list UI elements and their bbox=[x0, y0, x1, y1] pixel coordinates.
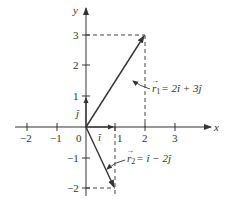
r1-label: r1= 2î + 3ĵ bbox=[152, 82, 202, 96]
r1-vector-arrow-icon: → bbox=[151, 76, 159, 85]
origin-label: 0 bbox=[76, 132, 82, 144]
vector-diagram: x −2 −1 0 1 2 3 y 3 2 1 −1 −2 î ĵ bbox=[0, 0, 228, 199]
y-tick-neg2: −2 bbox=[67, 182, 79, 194]
x-axis-label: x bbox=[213, 121, 219, 133]
guide-lines bbox=[86, 35, 145, 194]
y-axis-label: y bbox=[72, 4, 78, 16]
y-tick-3: 3 bbox=[73, 29, 79, 41]
x-axis: x −2 −1 0 1 2 3 bbox=[15, 121, 219, 144]
y-tick-2: 2 bbox=[73, 59, 79, 71]
r2-vector-arrow-icon: → bbox=[126, 146, 134, 155]
x-tick-neg1: −1 bbox=[50, 132, 62, 144]
y-tick-1: 1 bbox=[73, 90, 79, 102]
i-hat-label: î bbox=[98, 131, 102, 143]
r1-arrow-icon bbox=[86, 36, 144, 127]
x-tick-3: 3 bbox=[172, 132, 178, 144]
r1-pointer-icon bbox=[133, 81, 150, 89]
x-tick-neg2: −2 bbox=[20, 132, 32, 144]
x-tick-1: 1 bbox=[117, 132, 123, 144]
y-tick-neg1: −1 bbox=[67, 152, 79, 164]
r2-pointer-icon bbox=[107, 160, 125, 169]
x-tick-2: 2 bbox=[142, 132, 148, 144]
vector-r1: r1= 2î + 3ĵ → bbox=[86, 36, 202, 127]
j-hat-label: ĵ bbox=[74, 107, 80, 119]
